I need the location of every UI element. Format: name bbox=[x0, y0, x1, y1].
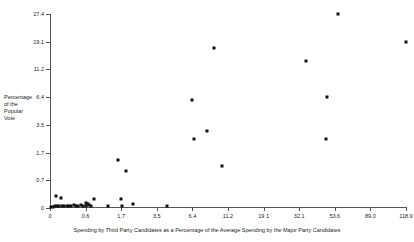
data-point bbox=[59, 197, 62, 200]
y-tick-label: 19.1 bbox=[33, 39, 44, 45]
x-tick-label: 6.4 bbox=[189, 213, 197, 219]
x-tick-label: 1.7 bbox=[117, 213, 125, 219]
data-point bbox=[405, 40, 408, 43]
x-tick-label: 89.0 bbox=[365, 213, 376, 219]
plot-area bbox=[50, 14, 406, 208]
y-tick-label: 27.4 bbox=[33, 11, 44, 17]
data-point bbox=[125, 169, 128, 172]
data-point bbox=[337, 13, 340, 16]
data-point bbox=[212, 47, 215, 50]
y-axis-title-line: Popular bbox=[4, 108, 48, 115]
data-point bbox=[120, 198, 123, 201]
y-tick-label: 1.7 bbox=[36, 150, 44, 156]
x-tick-label: 19.1 bbox=[258, 213, 269, 219]
x-axis-title: Spending by Third Party Candidates as a … bbox=[0, 226, 414, 234]
scatter-chart: 00.71.73.56.411.219.127.4 00.61.73.56.41… bbox=[0, 0, 414, 242]
data-point bbox=[132, 203, 135, 206]
data-point bbox=[90, 205, 93, 208]
x-tick-label: 32.1 bbox=[294, 213, 305, 219]
x-tick-label: 3.5 bbox=[153, 213, 161, 219]
x-tick-label: 0 bbox=[48, 213, 51, 219]
data-point bbox=[191, 99, 194, 102]
data-point bbox=[304, 60, 307, 63]
y-axis-title: Percentageof thePopularVote bbox=[4, 94, 48, 122]
y-axis-title-line: Percentage bbox=[4, 94, 48, 101]
y-axis-title-line: of the bbox=[4, 101, 48, 108]
data-point bbox=[326, 95, 329, 98]
data-point bbox=[324, 137, 327, 140]
y-tick-label: 3.5 bbox=[36, 122, 44, 128]
data-point bbox=[206, 130, 209, 133]
x-tick-label: 53.6 bbox=[329, 213, 340, 219]
x-tick-label: 11.2 bbox=[223, 213, 233, 219]
y-axis-title-line: Vote bbox=[4, 115, 48, 122]
data-point bbox=[92, 198, 95, 201]
data-point bbox=[54, 195, 57, 198]
x-tick-label: 0.6 bbox=[82, 213, 90, 219]
data-point bbox=[116, 158, 119, 161]
data-point bbox=[221, 165, 224, 168]
y-tick-label: 11.2 bbox=[34, 66, 44, 72]
data-point bbox=[192, 137, 195, 140]
data-point bbox=[165, 205, 168, 208]
x-tick-label: 118.9 bbox=[399, 213, 412, 219]
y-tick-label: 0 bbox=[41, 205, 44, 211]
data-point bbox=[120, 205, 123, 208]
y-tick-label: 0.7 bbox=[36, 177, 44, 183]
data-point bbox=[107, 204, 110, 207]
x-tick-mark bbox=[406, 207, 407, 211]
